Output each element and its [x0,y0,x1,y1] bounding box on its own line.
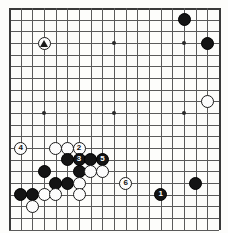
white-move-6[interactable]: 6 [119,177,132,190]
grid-line-vertical-10 [126,8,127,230]
stone-move-number: 6 [123,179,127,187]
black-stone-lower-left-a[interactable] [61,153,74,166]
stone-move-number: 4 [18,144,22,152]
stone-move-number: 1 [158,190,162,198]
grid-line-vertical-16 [196,8,197,230]
star-point-3 [42,111,46,115]
black-stone-lower-left-c[interactable] [38,165,51,178]
black-stone-upper-right-a[interactable] [178,13,191,26]
black-stone-upper-right-b[interactable] [201,37,214,50]
black-stone-lower-left-f[interactable] [61,177,74,190]
stone-move-number: 5 [100,155,104,163]
grid-line-vertical-5 [67,8,68,230]
stone-move-number: 3 [77,155,81,163]
goban-grid[interactable]: 423561 [0,0,228,233]
grid-line-horizontal-19 [9,230,219,231]
stone-move-number: 2 [77,144,81,152]
grid-line-vertical-14 [172,8,173,230]
black-move-1[interactable]: 1 [154,188,167,201]
grid-line-vertical-11 [137,8,138,230]
star-point-4 [112,111,116,115]
go-board-diagram: 423561 [0,0,228,233]
star-point-1 [112,41,116,45]
star-point-2 [182,41,186,45]
grid-line-vertical-8 [102,8,103,230]
white-move-4[interactable]: 4 [14,142,27,155]
grid-line-vertical-0 [9,8,11,230]
white-stone-lower-left-g[interactable] [49,188,62,201]
star-point-5 [182,111,186,115]
triangle-mark-icon [40,40,48,47]
white-stone-right-side[interactable] [201,95,214,108]
white-stone-lower-left-i[interactable] [26,200,39,213]
white-stone-lower-left-d[interactable] [96,165,109,178]
white-stone-lower-left-h[interactable] [73,188,86,201]
grid-line-vertical-7 [91,8,92,230]
black-stone-lower-right[interactable] [189,177,202,190]
grid-line-vertical-18 [219,8,221,230]
grid-line-vertical-12 [149,8,150,230]
